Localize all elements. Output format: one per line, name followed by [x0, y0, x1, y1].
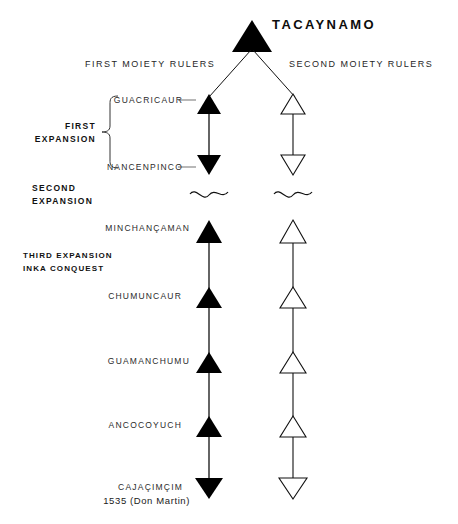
solid-triangle-icon [197, 155, 221, 175]
phase-label-second-expansion-line2: EXPANSION [32, 196, 93, 207]
first-expansion-bracket [102, 96, 118, 168]
root-node-tacaynamo [232, 20, 272, 52]
phase-label-third-expansion-line1: THIRD EXPANSION [23, 251, 113, 261]
wavy-break-icon [274, 192, 312, 197]
solid-triangle-icon [196, 352, 222, 373]
lineage-graphics-layer [0, 0, 458, 524]
ruler-label-nancenpinco: NANCENPINCO [107, 162, 183, 173]
ruler-label-minchancaman: MINCHANÇAMAN [105, 223, 190, 234]
solid-triangle-icon [196, 220, 222, 243]
solid-triangle-icon [232, 20, 272, 52]
solid-triangle-icon [197, 94, 221, 114]
final-date-label: 1535 (Don Martin) [103, 495, 190, 507]
page-title: TACAYNAMO [272, 17, 376, 33]
phase-label-first-expansion-line2: EXPANSION [35, 134, 96, 145]
phase-label-third-expansion-line2: INKA CONQUEST [23, 264, 104, 274]
outline-triangle-icon [281, 94, 305, 114]
ruler-label-ancocoyuch: ANCOCOYUCH [109, 420, 182, 431]
ruler-label-guacricaur: GUACRICAUR [114, 95, 183, 106]
solid-triangle-icon [196, 416, 222, 437]
branch-line-right [253, 50, 295, 97]
wavy-break-icon [190, 192, 228, 197]
branch-line-left [209, 50, 251, 97]
outline-triangle-icon [279, 478, 307, 499]
ruler-label-guamanchumu: GUAMANCHUMU [108, 356, 190, 367]
outline-triangle-icon [280, 352, 306, 373]
outline-triangle-icon [281, 155, 305, 175]
outline-triangle-icon [280, 220, 306, 243]
outline-triangle-icon [280, 416, 306, 437]
phase-label-second-expansion-line1: SECOND [32, 183, 76, 194]
ruler-label-cajacimcim: CAJAÇIMÇIM [118, 482, 183, 493]
outline-triangle-icon [280, 287, 306, 308]
solid-triangle-icon [195, 478, 223, 499]
column-header-second-moiety: SECOND MOIETY RULERS [289, 59, 433, 70]
solid-triangle-icon [196, 287, 222, 308]
dynastic-lineage-diagram: TACAYNAMO FIRST MOIETY RULERS SECOND MOI… [0, 0, 458, 524]
ruler-label-chumuncaur: CHUMUNCAUR [108, 291, 182, 302]
phase-label-first-expansion-line1: FIRST [65, 121, 96, 132]
column-header-first-moiety: FIRST MOIETY RULERS [85, 59, 215, 70]
